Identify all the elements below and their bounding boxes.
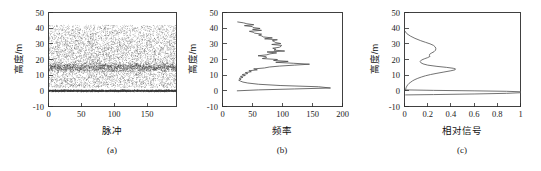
panel-a-ytick-neg10: -10 <box>33 102 44 112</box>
panel-a-ytick-0: 0 <box>40 86 44 96</box>
panel-c-ylabel: 高度/m <box>369 44 380 75</box>
panel-c-svg: 50 40 30 20 10 0 -10 0 0.2 0.4 0.6 0.8 1… <box>362 0 541 171</box>
panel-b-ytick-40: 40 <box>210 23 219 33</box>
panel-c-ground-return-lower <box>406 93 521 95</box>
panel-c-xtick-0: 0 <box>402 109 406 119</box>
panel-b-ytick-10: 10 <box>210 70 219 80</box>
panel-b-ylabel: 高度/m <box>187 44 198 75</box>
panel-c-x-ticks <box>405 103 521 107</box>
panel-a-xtick-50: 50 <box>77 109 86 119</box>
panel-b-xtick-0: 0 <box>220 109 224 119</box>
panel-c-xtick-10: 1 <box>518 109 522 119</box>
panel-b-curve <box>237 22 331 91</box>
panel-b-tag: (b) <box>277 145 288 155</box>
panel-a-scatter: 50 40 30 20 10 0 -10 0 50 100 150 脉冲 高度/… <box>0 0 180 171</box>
panel-b-frame <box>223 13 343 107</box>
panel-b-y-ticks <box>223 13 227 107</box>
panel-c-ytick-40: 40 <box>392 23 401 33</box>
panel-a-xtick-0: 0 <box>46 109 50 119</box>
panel-a-ytick-20: 20 <box>36 55 45 65</box>
panel-b-xtick-100: 100 <box>276 109 289 119</box>
panel-b-xlabel: 频率 <box>272 125 292 136</box>
panel-c-xtick-02: 0.2 <box>422 109 433 119</box>
panel-a-y-ticks <box>49 13 53 107</box>
panel-c-ytick-10: 10 <box>392 70 401 80</box>
panel-a-svg: 50 40 30 20 10 0 -10 0 50 100 150 脉冲 高度/… <box>0 0 180 171</box>
panel-c-ytick-50: 50 <box>392 8 401 18</box>
panel-b-ytick-20: 20 <box>210 55 219 65</box>
panel-a-ylabel: 高度/m <box>13 44 24 75</box>
panel-b-svg: 50 40 30 20 10 0 -10 0 50 100 150 200 频率… <box>180 0 365 171</box>
panel-a-ytick-30: 30 <box>36 39 45 49</box>
panel-c-y-ticks <box>405 13 409 107</box>
figure-root: 50 40 30 20 10 0 -10 0 50 100 150 脉冲 高度/… <box>0 0 541 171</box>
panel-c-ytick-neg10: -10 <box>389 102 400 112</box>
panel-c-ytick-30: 30 <box>392 39 401 49</box>
panel-c-waveform-curve <box>405 31 455 90</box>
panel-b-x-ticks <box>223 103 343 107</box>
panel-c-ytick-0: 0 <box>396 86 400 96</box>
panel-b-ytick-30: 30 <box>210 39 219 49</box>
panel-c-ground-return-upper <box>406 90 521 92</box>
panel-a-xtick-150: 150 <box>141 109 154 119</box>
panel-b-ytick-neg10: -10 <box>207 102 218 112</box>
panel-b-xtick-200: 200 <box>336 109 349 119</box>
panel-a-point-cloud <box>48 25 177 93</box>
panel-b-xtick-150: 150 <box>306 109 319 119</box>
panel-c-ytick-20: 20 <box>392 55 401 65</box>
panel-c-xtick-06: 0.6 <box>469 109 480 119</box>
panel-a-ytick-40: 40 <box>36 23 45 33</box>
panel-a-x-ticks <box>49 103 148 107</box>
panel-a-tag: (a) <box>107 145 117 155</box>
panel-c-tag: (c) <box>457 145 467 155</box>
panel-c-xtick-04: 0.4 <box>446 109 457 119</box>
panel-a-xtick-100: 100 <box>108 109 121 119</box>
panel-c-xlabel: 相对信号 <box>442 125 482 136</box>
panel-a-ytick-10: 10 <box>36 70 45 80</box>
panel-b-ytick-50: 50 <box>210 8 219 18</box>
panel-a-xlabel: 脉冲 <box>102 125 122 136</box>
panel-c-relative-signal: 50 40 30 20 10 0 -10 0 0.2 0.4 0.6 0.8 1… <box>362 0 541 171</box>
panel-b-xtick-50: 50 <box>248 109 257 119</box>
panel-b-ytick-0: 0 <box>214 86 218 96</box>
panel-a-ytick-50: 50 <box>36 8 45 18</box>
panel-c-xtick-08: 0.8 <box>492 109 503 119</box>
panel-b-frequency-profile: 50 40 30 20 10 0 -10 0 50 100 150 200 频率… <box>180 0 365 171</box>
